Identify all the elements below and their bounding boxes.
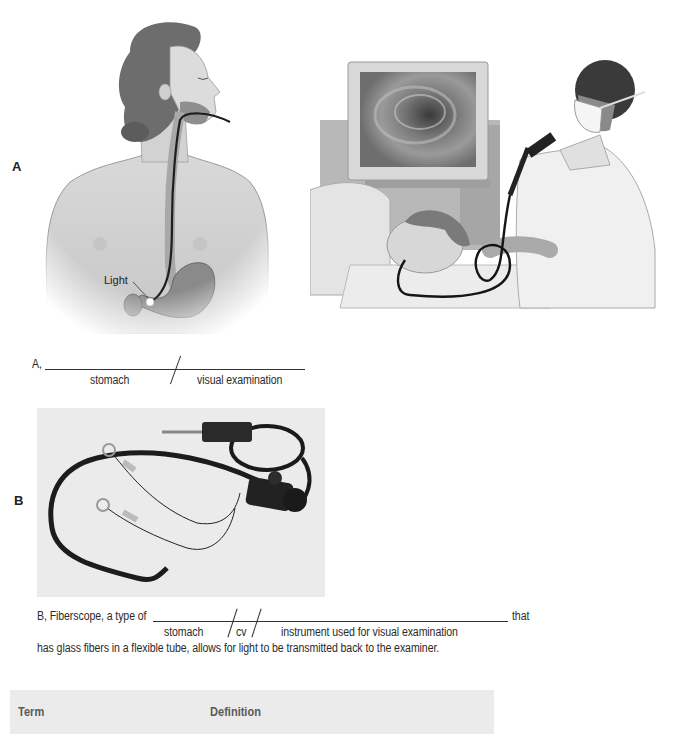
fill-in-b-blank[interactable] [153,621,508,622]
fill-in-a-part-stomach: stomach [90,373,129,387]
fill-in-b-part-instrument: instrument used for visual examination [281,625,458,639]
figure-b-label: B [14,493,23,508]
fill-in-b-part-stomach: stomach [164,625,203,639]
term-definition-table-header: Term Definition [10,690,494,734]
fill-in-b-continuation: has glass fibers in a flexible tube, all… [37,641,439,655]
column-header-definition: Definition [210,704,261,719]
fill-in-b-divider-2 [251,609,261,638]
fill-in-a-prefix: A, [32,357,42,371]
figure-a-label: A [12,159,21,174]
fill-in-b-suffix: that [512,609,529,623]
column-header-term: Term [18,704,44,719]
fill-in-a-part-visual-examination: visual examination [197,373,282,387]
fiberscope-photo-graphic [37,408,325,597]
fill-in-a-divider [170,356,181,385]
fill-in-b-part-cv: cv [236,625,246,639]
figure-b-fiberscope-photo [37,408,325,597]
figure-a-anatomy-illustration: Light [30,12,280,334]
fill-in-b-prefix: B, Fiberscope, a type of [37,609,146,623]
light-callout-label: Light [104,274,128,286]
procedure-illustration-graphic [310,50,665,310]
anatomy-illustration-graphic [30,12,280,334]
figure-a-procedure-illustration [310,50,665,310]
